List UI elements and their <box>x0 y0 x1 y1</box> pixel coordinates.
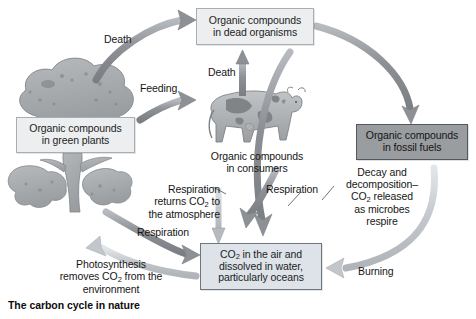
label-decay-line3a: CO <box>351 190 367 202</box>
label-respiration-returns-line2a: returns CO <box>154 195 204 207</box>
label-feeding: Feeding <box>140 82 177 94</box>
label-photosynthesis-line2a: removes CO <box>60 270 118 282</box>
box-fossil-fuels-line2: in fossil fuels <box>383 141 442 153</box>
label-respiration-returns-line3: the atmosphere <box>148 208 220 220</box>
box-dead-organisms-line2: in dead organisms <box>213 26 297 38</box>
label-decay-line1: Decay and <box>357 166 406 178</box>
box-co2-line3: particularly oceans <box>218 271 304 283</box>
box-green-plants: Organic compounds in green plants <box>16 117 135 153</box>
box-co2-line1-prefix: CO <box>220 248 236 260</box>
label-organic-compounds-consumers: Organic compounds in consumers <box>194 150 320 174</box>
box-dead-organisms-line1: Organic compounds <box>209 14 301 26</box>
arrow-feeding <box>140 91 196 120</box>
label-respiration-plants: Respiration <box>137 226 189 238</box>
label-consumers-line2: in consumers <box>226 162 287 174</box>
figure-caption: The carbon cycle in nature <box>8 299 140 311</box>
label-respiration-returns-line2b: to <box>209 195 220 207</box>
label-photosynthesis-line1: Photosynthesis <box>76 258 146 270</box>
label-respiration-returns-sub: 2 <box>205 200 209 209</box>
box-green-plants-line1: Organic compounds <box>29 122 121 134</box>
label-decay-sub: 2 <box>367 195 371 204</box>
label-photosynthesis-line2b: from the <box>122 270 163 282</box>
label-decay-line5: respire <box>366 215 397 227</box>
label-death-plants: Death <box>104 33 132 45</box>
box-co2-line1-subscript: 2 <box>236 252 240 261</box>
box-dead-organisms: Organic compounds in dead organisms <box>196 8 314 45</box>
label-decay-decomposition: Decay and decomposition– CO2 released as… <box>336 166 428 227</box>
diagram-canvas: Organic compounds in dead organisms Orga… <box>0 0 476 298</box>
arrow-death-consumers <box>236 50 249 96</box>
label-respiration-returns-line1: Respiration <box>168 183 220 195</box>
label-photosynthesis: Photosynthesis removes CO2 from the envi… <box>38 258 184 295</box>
label-photosynthesis-sub: 2 <box>118 275 122 284</box>
label-burning: Burning <box>358 265 394 277</box>
box-co2-air-water: CO2 in the air and dissolved in water, p… <box>200 243 322 290</box>
label-decay-line3b: released <box>371 190 413 202</box>
label-respiration-returns-co2: Respiration returns CO2 to the atmospher… <box>130 183 220 220</box>
box-co2-line2: dissolved in water, <box>219 260 303 272</box>
arrow-decay-to-co2 <box>254 52 290 236</box>
label-consumers-line1: Organic compounds <box>211 150 303 162</box>
box-co2-line1-rest: in the air and <box>240 248 302 260</box>
label-respiration-consumers: Respiration <box>266 183 318 195</box>
carbon-cycle-figure: Organic compounds in dead organisms Orga… <box>0 0 476 319</box>
label-death-consumers: Death <box>208 66 236 78</box>
box-green-plants-line2: in green plants <box>42 134 109 146</box>
box-fossil-fuels: Organic compounds in fossil fuels <box>356 124 468 160</box>
arrow-dead-to-fossil <box>316 26 419 124</box>
label-photosynthesis-line3: environment <box>83 283 140 295</box>
box-fossil-fuels-line1: Organic compounds <box>366 129 458 141</box>
label-decay-line4: as microbes <box>354 203 410 215</box>
label-decay-line2: decomposition– <box>346 178 418 190</box>
